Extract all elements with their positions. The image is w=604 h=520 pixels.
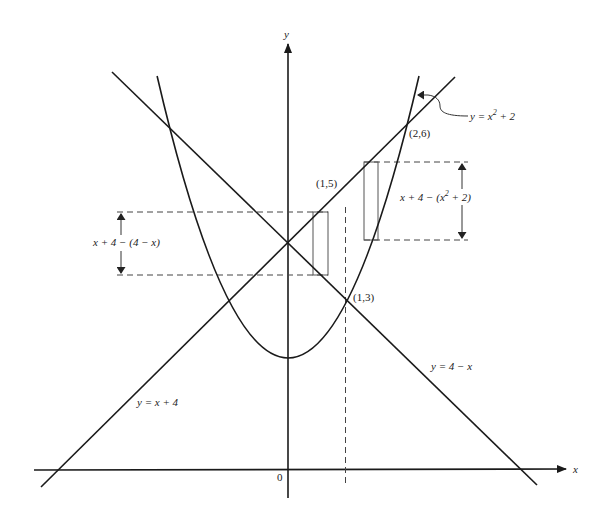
y-axis-label: y — [283, 28, 289, 40]
parabola-label: y = x2 + 2 — [469, 108, 516, 122]
left-height-label: x + 4 − (4 − x) — [92, 236, 160, 249]
origin-label: 0 — [277, 471, 283, 483]
line-y-equals-x-plus-4 — [41, 77, 455, 487]
x-axis-label: x — [572, 463, 578, 475]
line-4-minus-x-label: y = 4 − x — [430, 360, 472, 372]
point-2-6-label: (2,6) — [409, 127, 430, 140]
x-axis — [34, 469, 566, 470]
point-1-3-label: (1,3) — [353, 291, 374, 304]
left-representative-rectangle — [313, 212, 328, 275]
right-representative-rectangle — [364, 162, 378, 240]
line-x-plus-4-label: y = x + 4 — [136, 396, 179, 408]
right-height-label: x + 4 − (x2 + 2) — [399, 189, 471, 204]
area-between-curves-diagram: x y 0 y = x2 + 2 y = x + 4 y = 4 − x (1,… — [0, 0, 604, 520]
point-1-5-label: (1,5) — [316, 177, 337, 190]
line-y-equals-4-minus-x — [112, 72, 537, 485]
